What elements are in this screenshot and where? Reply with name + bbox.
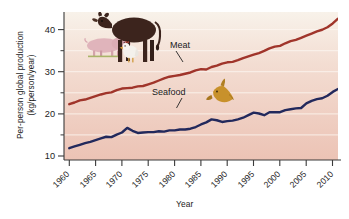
- x-axis-ticks: [69, 160, 332, 166]
- y-axis-title: Per-person global production (kg/person/…: [16, 10, 37, 160]
- series-annotation-meat: Meat: [170, 40, 190, 50]
- chart-figure: 40 30 20 10 1960 1965 1970 1975 1980 198…: [0, 0, 349, 219]
- x-axis-title: Year: [176, 199, 193, 209]
- series-annotation-seafood: Seafood: [152, 87, 186, 97]
- y-axis-title-line2: (kg/person/year): [27, 10, 38, 160]
- y-axis-title-line1: Per-person global production: [16, 10, 27, 160]
